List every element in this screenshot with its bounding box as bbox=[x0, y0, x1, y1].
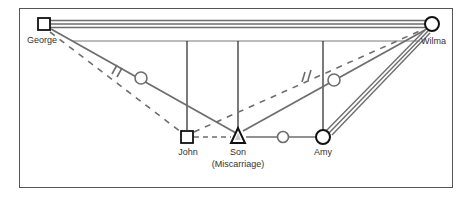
small-circle-icon bbox=[328, 74, 340, 86]
label-amy: Amy bbox=[314, 147, 332, 157]
genogram-canvas bbox=[0, 0, 470, 203]
marriage-line-george-wilma[interactable] bbox=[50, 21, 426, 28]
cutoff-hash-icon bbox=[302, 70, 311, 82]
label-son: Son bbox=[230, 147, 246, 157]
person-wilma-female-icon[interactable] bbox=[425, 17, 439, 31]
small-circle-icon bbox=[278, 132, 289, 143]
label-wilma: Wilma bbox=[421, 36, 446, 46]
relation-amy-wilma[interactable] bbox=[326, 29, 430, 135]
person-amy-female-icon[interactable] bbox=[316, 130, 330, 144]
label-son-note: (Miscarriage) bbox=[212, 159, 265, 169]
relation-john-wilma[interactable] bbox=[194, 29, 424, 132]
label-george: George bbox=[27, 35, 57, 45]
label-john: John bbox=[178, 147, 198, 157]
relation-george-john[interactable] bbox=[50, 32, 181, 132]
small-circle-icon bbox=[135, 72, 147, 84]
person-john-male-icon[interactable] bbox=[181, 131, 193, 143]
person-george-male-icon[interactable] bbox=[38, 18, 50, 30]
